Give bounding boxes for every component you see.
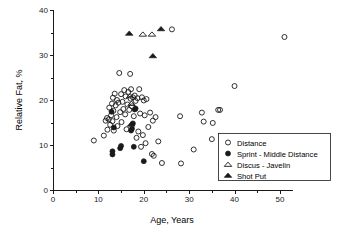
data-point bbox=[134, 135, 139, 140]
x-tick-label: 40 bbox=[230, 195, 239, 204]
y-tick-label: 30 bbox=[39, 51, 48, 60]
legend-marker-filled-circle bbox=[226, 151, 231, 156]
x-tick-label: 0 bbox=[51, 195, 56, 204]
data-point bbox=[142, 113, 147, 118]
data-point bbox=[117, 71, 122, 76]
data-point bbox=[141, 159, 146, 164]
data-point bbox=[128, 71, 133, 76]
data-point bbox=[153, 115, 158, 120]
x-tick-label: 10 bbox=[94, 195, 103, 204]
scatter-plot-figure: 01020304001020304050 DistanceSprint - Mi… bbox=[0, 0, 345, 237]
data-point bbox=[136, 129, 141, 134]
data-point bbox=[146, 125, 151, 130]
data-point bbox=[210, 120, 215, 125]
data-point bbox=[199, 110, 204, 115]
y-axis-title: Relative Fat, % bbox=[14, 69, 24, 130]
y-tick-label: 40 bbox=[39, 6, 48, 15]
data-point bbox=[123, 112, 128, 117]
y-tick-label: 0 bbox=[44, 186, 49, 195]
legend-label: Discus - Javelin bbox=[237, 161, 290, 170]
data-point bbox=[232, 84, 237, 89]
chart-legend: DistanceSprint - Middle DistanceDiscus -… bbox=[219, 134, 331, 181]
series-discus-javelin bbox=[126, 32, 155, 106]
data-point bbox=[139, 32, 147, 36]
data-point bbox=[209, 137, 214, 142]
data-point bbox=[178, 161, 183, 166]
data-point bbox=[191, 147, 196, 152]
data-point bbox=[157, 26, 165, 30]
data-point bbox=[148, 110, 153, 115]
y-tick-label: 20 bbox=[39, 96, 48, 105]
data-point bbox=[129, 126, 134, 131]
data-point bbox=[137, 87, 142, 92]
legend-label: Shot Put bbox=[237, 172, 267, 181]
x-tick-label: 20 bbox=[139, 195, 148, 204]
x-tick-label: 50 bbox=[275, 195, 284, 204]
data-point bbox=[201, 119, 206, 124]
data-point bbox=[110, 149, 115, 154]
x-tick-label: 30 bbox=[185, 195, 194, 204]
data-point bbox=[159, 161, 164, 166]
data-point bbox=[169, 27, 174, 32]
data-point bbox=[111, 125, 116, 130]
data-point bbox=[282, 35, 287, 40]
data-point bbox=[148, 32, 156, 36]
data-point bbox=[121, 107, 126, 112]
data-point bbox=[131, 144, 136, 149]
data-point bbox=[119, 143, 124, 148]
x-axis-title: Age, Years bbox=[150, 215, 194, 225]
data-point bbox=[149, 53, 157, 57]
data-point bbox=[105, 127, 110, 132]
data-point bbox=[133, 106, 138, 111]
data-point bbox=[131, 114, 136, 119]
legend-label: Sprint - Middle Distance bbox=[237, 150, 318, 159]
data-point bbox=[119, 120, 124, 125]
data-point bbox=[114, 115, 119, 120]
data-point bbox=[156, 139, 161, 144]
data-point bbox=[139, 144, 144, 149]
y-tick-label: 10 bbox=[39, 141, 48, 150]
data-point bbox=[125, 31, 133, 35]
data-point bbox=[109, 109, 114, 114]
plot-canvas: 01020304001020304050 DistanceSprint - Mi… bbox=[0, 0, 345, 237]
data-point bbox=[118, 110, 123, 115]
data-point bbox=[140, 133, 145, 138]
data-point bbox=[101, 133, 106, 138]
data-point bbox=[143, 141, 148, 146]
data-point bbox=[91, 138, 96, 143]
legend-label: Distance bbox=[237, 139, 267, 148]
data-point bbox=[178, 114, 183, 119]
